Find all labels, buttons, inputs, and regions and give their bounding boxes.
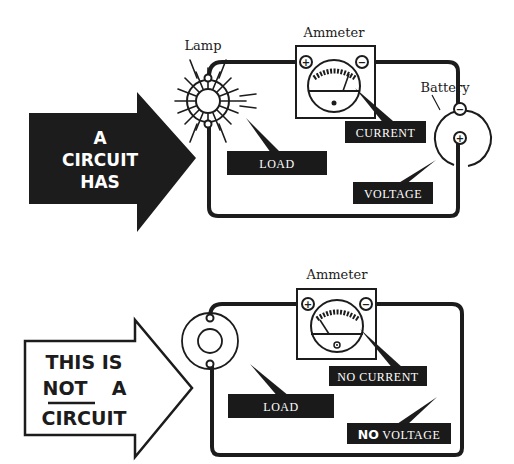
no-voltage-callout-text: NO VOLTAGE — [358, 427, 440, 442]
arrow-word-a: A — [112, 377, 127, 399]
lamp-label: Lamp — [184, 38, 221, 53]
no-current-callout-text: NO CURRENT — [337, 370, 419, 384]
svg-text:−: − — [358, 57, 366, 68]
ammeter-icon: + − — [297, 289, 376, 359]
ammeter-icon: + − — [296, 46, 375, 118]
load-pointer — [250, 364, 289, 398]
arrow-line-1: THIS IS — [46, 351, 123, 373]
bottom-panel: THIS IS NOT A CIRCUIT + − — [25, 267, 462, 457]
light-rays-icon — [175, 60, 256, 142]
arrow-word-not: NOT — [42, 377, 87, 399]
arrow-line-3: CIRCUIT — [41, 407, 126, 429]
circuit-diagram: A CIRCUIT HAS — [0, 0, 514, 464]
svg-text:+: + — [456, 133, 464, 144]
battery-pointer-arrow — [432, 95, 440, 110]
battery-label: Battery — [420, 80, 470, 95]
battery-icon: − + — [435, 103, 491, 166]
circuit-has-arrow: A CIRCUIT HAS — [29, 92, 196, 232]
lamp-icon — [175, 60, 256, 142]
load-callout-text: LOAD — [263, 400, 298, 414]
lamp-unlit-icon — [182, 313, 238, 369]
svg-text:−: − — [456, 104, 464, 115]
ammeter-label: Ammeter — [306, 267, 369, 282]
no-voltage-rest: VOLTAGE — [379, 428, 440, 442]
top-panel: A CIRCUIT HAS — [29, 25, 491, 232]
no-voltage-pointer — [397, 397, 437, 425]
arrow-line-1: A — [93, 128, 107, 148]
voltage-callout-text: VOLTAGE — [364, 187, 422, 201]
voltage-pointer — [397, 160, 436, 185]
no-voltage-bold: NO — [358, 427, 379, 442]
not-a-circuit-arrow: THIS IS NOT A CIRCUIT — [25, 320, 192, 457]
current-callout-text: CURRENT — [356, 126, 416, 140]
svg-text:+: + — [302, 57, 310, 68]
svg-text:−: − — [362, 299, 370, 310]
load-pointer — [246, 118, 279, 153]
ammeter-label: Ammeter — [303, 25, 366, 40]
arrow-line-2: CIRCUIT — [62, 150, 138, 170]
svg-text:+: + — [304, 299, 312, 310]
load-callout-text: LOAD — [259, 157, 294, 171]
arrow-line-3: HAS — [80, 172, 120, 192]
